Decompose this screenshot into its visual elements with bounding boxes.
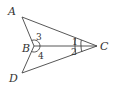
point-label-B: B	[21, 42, 30, 55]
point-label-D: D	[8, 72, 18, 85]
segment-DC	[22, 46, 97, 73]
point-label-C: C	[100, 40, 109, 53]
angle-label-2: 2	[71, 47, 77, 57]
geometry-figure: A B C D 3 4 1 2	[0, 0, 116, 88]
angle-label-3: 3	[36, 32, 42, 42]
angle-2-arc-inner	[81, 46, 82, 52]
angle-label-4: 4	[38, 51, 44, 61]
angle-label-1: 1	[72, 37, 78, 47]
point-label-A: A	[7, 5, 16, 18]
segment-AC	[22, 17, 97, 46]
